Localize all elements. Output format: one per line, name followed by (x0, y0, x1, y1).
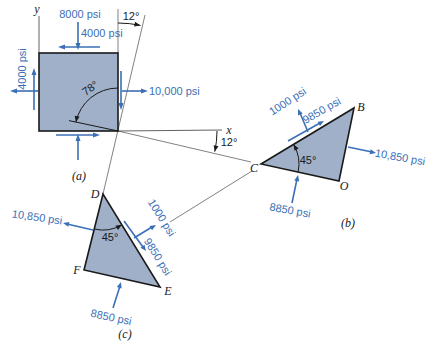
vertex-c-label: C (250, 161, 259, 175)
panel-c-caption: (c) (118, 327, 131, 341)
co-normal-stress-arrow (292, 179, 297, 203)
left-shear-stress-label: 4000 psi (16, 48, 28, 90)
top-normal-stress-label: 8000 psi (59, 8, 101, 20)
square-element (39, 53, 118, 131)
arrowhead-icon (214, 145, 219, 151)
vertex-f-label: F (72, 263, 81, 277)
ob-normal-stress-arrow (348, 147, 372, 152)
arrow-right-icon (141, 89, 148, 94)
angle-45-label: 45° (102, 231, 119, 243)
cb-normal-stress-label: 1000 psi (267, 85, 308, 118)
arrow-up-icon (32, 68, 37, 75)
co-normal-stress-label: 8850 psi (269, 200, 312, 219)
vertex-b-label: B (357, 100, 365, 114)
stress-transformation-figure: 78° 8000 psi 4000 psi 4000 psi 10,000 ps… (0, 0, 426, 344)
x-axis-line (118, 130, 222, 131)
connector-line-c-to-panel-c (170, 171, 252, 222)
arrow-icon (63, 222, 69, 227)
de-normal-stress-label: 1000 psi (146, 197, 178, 239)
y-axis-label: y (33, 2, 40, 16)
x-rotation-angle-label: 12° (221, 136, 238, 148)
arrow-icon (117, 282, 122, 289)
top-shear-stress-label: 4000 psi (81, 27, 123, 39)
df-normal-stress-label: 10,850 psi (11, 208, 63, 227)
arrow-left-icon (58, 45, 65, 50)
vertex-d-label: D (90, 187, 100, 201)
df-normal-stress-arrow (67, 224, 93, 230)
top-rotation-angle-label: 12° (123, 10, 140, 22)
fe-normal-stress-arrow (113, 286, 120, 308)
panel-b-caption: (b) (341, 216, 355, 230)
right-normal-stress-label: 10,000 psi (149, 85, 200, 97)
arrowhead-icon (134, 22, 140, 27)
x-axis-label: x (225, 123, 232, 137)
angle-45-label: 45° (300, 154, 317, 166)
arrow-icon (294, 175, 299, 181)
vertex-o-label: O (340, 179, 349, 193)
panel-c-wedge-element: 45° 10,850 psi 1000 psi 9850 psi 8850 ps… (11, 187, 178, 341)
panel-a-caption: (a) (72, 169, 86, 183)
arrow-right-icon (93, 133, 100, 138)
panel-b-wedge-element: 45° 1000 psi 9850 psi 10,850 psi 8850 ps… (250, 85, 426, 230)
vertex-e-label: E (163, 284, 172, 298)
ob-normal-stress-label: 10,850 psi (374, 147, 426, 168)
panel-a-stress-element: 78° 8000 psi 4000 psi 4000 psi 10,000 ps… (10, 2, 237, 183)
fe-normal-stress-label: 8850 psi (90, 307, 133, 327)
